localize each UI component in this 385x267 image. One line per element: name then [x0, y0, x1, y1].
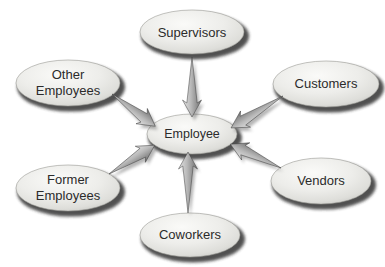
node-customers-label: Customers: [295, 76, 358, 91]
employee-relationship-diagram: Supervisors Other Employees Customers Em…: [0, 0, 385, 267]
diagram-canvas: Supervisors Other Employees Customers Em…: [0, 0, 385, 267]
node-other-employees-label-2: Employees: [36, 83, 101, 98]
node-former-employees-label-1: Former: [47, 172, 90, 187]
node-former-employees-label-2: Employees: [36, 188, 101, 203]
node-coworkers-label: Coworkers: [159, 227, 222, 242]
node-employee-label: Employee: [164, 127, 220, 141]
node-vendors-label: Vendors: [297, 173, 345, 188]
arrow-coworkers-to-employee: [179, 152, 198, 213]
node-other-employees-label-1: Other: [52, 67, 85, 82]
node-supervisors-label: Supervisors: [158, 25, 227, 40]
